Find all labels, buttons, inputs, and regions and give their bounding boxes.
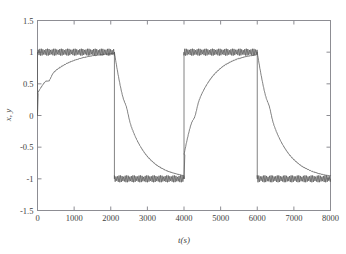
- y-axis-title: x, y: [3, 109, 13, 123]
- x-tick-label: 3000: [139, 213, 156, 223]
- x-axis-title: t(s): [178, 235, 190, 245]
- y-tick-label: 1: [29, 47, 33, 57]
- x-tick-label: 0: [35, 213, 39, 223]
- y-tick-label: 0: [29, 111, 33, 121]
- y-tick-label: -1.5: [20, 206, 33, 216]
- x-tick-label: 7000: [285, 213, 302, 223]
- x-tick-label: 8000: [322, 213, 339, 223]
- y-tick-label: -0.5: [20, 142, 33, 152]
- x-tick-label: 6000: [249, 213, 266, 223]
- series-line-x: [38, 49, 331, 183]
- x-tick-label: 4000: [176, 213, 193, 223]
- y-tick-label: -1: [26, 174, 33, 184]
- plot-area: -1.5-1-0.500.511.5 010002000300040005000…: [0, 0, 346, 254]
- x-tick-label: 1000: [66, 213, 83, 223]
- x-axis-tick-labels: 010002000300040005000600070008000: [35, 213, 339, 223]
- x-tick-label: 5000: [212, 213, 229, 223]
- y-tick-label: 1.5: [23, 16, 34, 26]
- y-tick-label: 0.5: [23, 79, 34, 89]
- chart-svg: -1.5-1-0.500.511.5 010002000300040005000…: [0, 0, 346, 254]
- x-tick-label: 2000: [102, 213, 119, 223]
- y-axis-tick-labels: -1.5-1-0.500.511.5: [20, 16, 33, 216]
- figure-container: · ·· ·· ···· ··· · ···· ·· ···· ··· ·· ·…: [0, 0, 346, 254]
